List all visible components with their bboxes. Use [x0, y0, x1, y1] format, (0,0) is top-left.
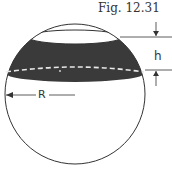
radius-label: R — [38, 88, 46, 101]
spherical-zone-band — [0, 30, 172, 82]
sphere-diagram — [0, 0, 172, 172]
height-label: h — [154, 49, 162, 63]
center-dot — [59, 70, 61, 72]
